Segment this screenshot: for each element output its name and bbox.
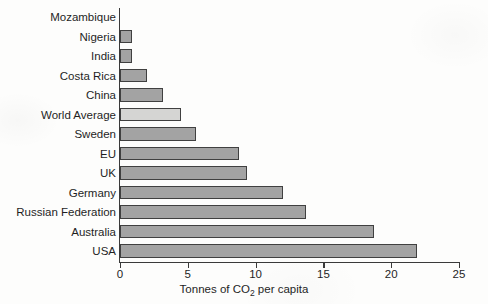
bar-row xyxy=(120,67,459,87)
bar-chart-figure: 0510152025 MozambiqueNigeriaIndiaCosta R… xyxy=(0,0,488,304)
x-axis-title-subscript: 2 xyxy=(250,288,255,298)
x-axis-title-before: Tonnes of CO xyxy=(180,283,250,295)
x-axis-title: Tonnes of CO2 per capita xyxy=(0,283,488,295)
category-label-costa-rica: Costa Rica xyxy=(60,70,116,83)
x-axis-tick-label: 20 xyxy=(385,268,398,280)
bar-row xyxy=(120,145,459,165)
bar-row xyxy=(120,28,459,48)
bar-row xyxy=(120,242,459,262)
bar-eu xyxy=(120,147,239,161)
bar-uk xyxy=(120,166,247,180)
x-axis-tick-label: 5 xyxy=(185,268,191,280)
bar-world-average xyxy=(120,108,181,122)
bar-row xyxy=(120,106,459,126)
category-label-russian-federation: Russian Federation xyxy=(16,206,116,219)
bar-sweden xyxy=(120,127,196,141)
category-label-china: China xyxy=(86,89,116,102)
bar-india xyxy=(120,49,132,63)
bar-usa xyxy=(120,244,417,258)
bar-row xyxy=(120,184,459,204)
category-label-eu: EU xyxy=(100,148,116,161)
x-axis-tick-label: 10 xyxy=(249,268,262,280)
x-axis-title-after: per capita xyxy=(255,283,309,295)
bar-nigeria xyxy=(120,30,132,44)
bar-row xyxy=(120,203,459,223)
bar-row xyxy=(120,164,459,184)
bar-russian-federation xyxy=(120,205,306,219)
category-label-sweden: Sweden xyxy=(74,128,116,141)
x-axis-tick-label: 25 xyxy=(453,268,466,280)
bar-china xyxy=(120,88,163,102)
category-label-germany: Germany xyxy=(69,187,116,200)
bar-row xyxy=(120,125,459,145)
x-axis-tick-label: 15 xyxy=(317,268,330,280)
bar-row xyxy=(120,8,459,28)
category-label-australia: Australia xyxy=(71,226,116,239)
bar-row xyxy=(120,223,459,243)
bar-row xyxy=(120,86,459,106)
bar-costa-rica xyxy=(120,69,147,83)
category-label-uk: UK xyxy=(100,167,116,180)
bar-australia xyxy=(120,225,374,239)
x-axis-tick-label: 0 xyxy=(117,268,123,280)
category-label-india: India xyxy=(91,50,116,63)
category-label-usa: USA xyxy=(92,245,116,258)
bar-row xyxy=(120,47,459,67)
category-label-nigeria: Nigeria xyxy=(80,31,116,44)
category-label-mozambique: Mozambique xyxy=(50,11,116,24)
plot-area xyxy=(120,8,459,262)
bar-germany xyxy=(120,186,283,200)
category-label-world-average: World Average xyxy=(41,109,116,122)
